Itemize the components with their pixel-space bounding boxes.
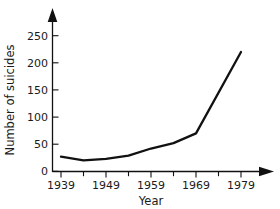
y-tick-label-150: 150 — [27, 84, 48, 97]
x-axis-title: Year — [138, 194, 164, 208]
x-axis-arrow-icon — [259, 167, 274, 176]
y-tick-label-100: 100 — [27, 111, 48, 124]
x-tick-label-1959: 1959 — [137, 179, 165, 192]
y-axis-title: Number of suicides — [3, 45, 17, 156]
y-tick-label-0: 0 — [41, 165, 48, 178]
y-tick-label-250: 250 — [27, 30, 48, 43]
x-tick-label-1939: 1939 — [47, 179, 75, 192]
x-axis-tick-labels: 1939 1949 1959 1969 1979 — [47, 179, 255, 192]
data-series-line — [61, 52, 241, 160]
x-axis-major-ticks — [61, 172, 241, 178]
chart-figure: 250 200 150 100 50 0 1939 1949 1959 — [0, 0, 280, 209]
line-chart-canvas: 250 200 150 100 50 0 1939 1949 1959 — [0, 0, 280, 209]
x-tick-label-1949: 1949 — [92, 179, 120, 192]
x-tick-label-1979: 1979 — [227, 179, 255, 192]
y-axis-ticks — [53, 36, 59, 172]
y-tick-label-200: 200 — [27, 57, 48, 70]
y-axis-tick-labels: 250 200 150 100 50 0 — [27, 30, 48, 179]
y-tick-label-50: 50 — [34, 138, 48, 151]
y-axis-arrow-icon — [48, 8, 58, 22]
x-tick-label-1969: 1969 — [182, 179, 210, 192]
